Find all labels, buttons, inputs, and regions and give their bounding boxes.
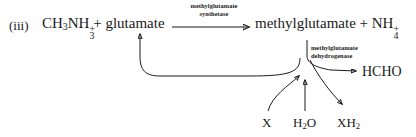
reaction-arrows-layer (0, 0, 416, 137)
acceptor-input-arrow (268, 76, 299, 111)
reaction-scheme-diagram: (iii) CH3NH3+ + glutamate methylglutamat… (0, 0, 416, 137)
glutamate-recycle-arrow (140, 34, 300, 76)
acceptor-output-arrow (310, 60, 342, 104)
